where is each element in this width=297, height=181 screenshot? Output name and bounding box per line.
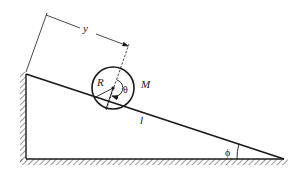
phi-arc — [237, 144, 239, 159]
y-dimension-line-left — [46, 15, 80, 28]
label-y: y — [82, 22, 88, 34]
y-dimension-line-right — [96, 34, 128, 46]
y-extension-left — [26, 13, 47, 72]
label-phi: ϕ — [225, 147, 230, 158]
incline-surface — [26, 74, 284, 159]
cylinder-center — [111, 86, 114, 89]
label-R: R — [96, 76, 104, 88]
y-extension-right — [106, 44, 129, 110]
ground-hatching — [20, 159, 288, 165]
wall-hatching — [20, 72, 26, 162]
label-M: M — [140, 78, 151, 90]
label-l: l — [140, 114, 143, 126]
inclined-plane-diagram: y R θ M l ϕ — [0, 0, 297, 181]
label-theta: θ — [123, 84, 128, 95]
